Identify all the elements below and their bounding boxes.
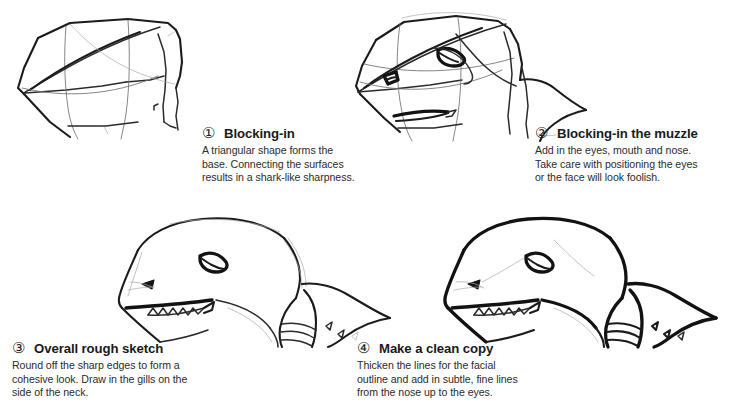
caption-step-4-heading: ④ Make a clean copy [357, 341, 518, 356]
step-title-2: Blocking-in the muzzle [557, 127, 698, 141]
step-body-4-line-1: Thicken the lines for the facial [357, 359, 518, 373]
step-number-4: ④ [357, 341, 370, 356]
caption-step-4: ④ Make a clean copy Thicken the lines fo… [357, 341, 518, 400]
caption-step-3-heading: ③ Overall rough sketch [12, 341, 187, 356]
caption-step-3: ③ Overall rough sketch Round off the sha… [12, 341, 187, 400]
step-body-4: Thicken the lines for the facial outline… [357, 359, 518, 400]
step-number-2: ② [535, 126, 548, 141]
step-body-1-line-3: results in a shark-like sharpness. [202, 171, 355, 185]
step-body-1: A triangular shape forms the base. Conne… [202, 144, 355, 185]
caption-step-2: ② Blocking-in the muzzle Add in the eyes… [535, 126, 698, 185]
step-number-1: ① [202, 126, 215, 141]
step-body-3: Round off the sharp edges to form a cohe… [12, 359, 187, 400]
step-body-4-line-3: from the nose up to the eyes. [357, 386, 518, 400]
step-body-4-line-2: outline and add in subtle, fine lines [357, 373, 518, 387]
tutorial-canvas: ① Blocking-in A triangular shape forms t… [0, 0, 729, 417]
step-body-2-line-1: Add in the eyes, mouth and nose. [535, 144, 698, 158]
step-title-3: Overall rough sketch [34, 342, 163, 356]
caption-step-1: ① Blocking-in A triangular shape forms t… [202, 126, 355, 185]
step-body-1-line-2: base. Connecting the surfaces [202, 158, 355, 172]
step-body-3-line-2: cohesive look. Draw in the gills on the [12, 373, 187, 387]
caption-step-2-heading: ② Blocking-in the muzzle [535, 126, 698, 141]
step-number-3: ③ [12, 341, 25, 356]
shark-head-stage-2-muzzle [338, 2, 598, 142]
step-title-4: Make a clean copy [379, 342, 493, 356]
step-body-3-line-1: Round off the sharp edges to form a [12, 359, 187, 373]
shark-head-stage-3-rough-sketch [108, 212, 398, 347]
step-body-2: Add in the eyes, mouth and nose. Take ca… [535, 144, 698, 185]
shark-head-stage-4-clean-copy [432, 212, 727, 347]
caption-step-1-heading: ① Blocking-in [202, 126, 355, 141]
shark-head-stage-1-blocking-in [8, 6, 213, 141]
step-body-2-line-2: Take care with positioning the eyes [535, 158, 698, 172]
step-body-2-line-3: or the face will look foolish. [535, 171, 698, 185]
step-title-1: Blocking-in [224, 127, 295, 141]
step-body-1-line-1: A triangular shape forms the [202, 144, 355, 158]
step-body-3-line-3: side of the neck. [12, 386, 187, 400]
